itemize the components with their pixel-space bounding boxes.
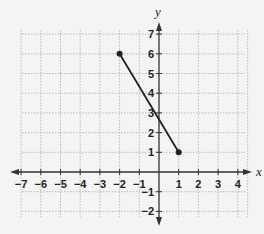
y-axis-arrow-up-icon [156, 22, 162, 31]
endpoint-dot [176, 149, 182, 155]
y-tick-label: 6 [148, 48, 154, 60]
y-tick-label: −2 [141, 205, 154, 217]
y-tick-label: −1 [141, 186, 154, 198]
x-axis-arrow-left-icon [10, 169, 19, 175]
y-tick-label: 1 [148, 146, 154, 158]
endpoint-dot [117, 51, 123, 57]
y-tick-label: 2 [148, 127, 154, 139]
y-tick-label: 4 [148, 87, 155, 99]
x-tick-label: 2 [195, 178, 201, 190]
x-tick-label: −3 [94, 178, 107, 190]
y-tick-label: 7 [148, 28, 154, 40]
x-tick-label: −2 [113, 178, 126, 190]
y-axis-arrow-down-icon [156, 217, 162, 226]
y-tick-label: 5 [148, 68, 154, 80]
x-tick-label: −7 [15, 178, 28, 190]
x-tick-label: −5 [54, 178, 67, 190]
x-axis-label: x [255, 164, 262, 179]
x-tick-label: 4 [235, 178, 242, 190]
x-tick-label: 3 [215, 178, 221, 190]
x-tick-label: 1 [176, 178, 182, 190]
x-tick-label: −4 [74, 178, 87, 190]
y-axis-label: y [153, 4, 161, 19]
coordinate-plane: xy−7−6−5−4−3−2−11234−2−11234567 [0, 0, 264, 234]
x-tick-label: −6 [35, 178, 48, 190]
